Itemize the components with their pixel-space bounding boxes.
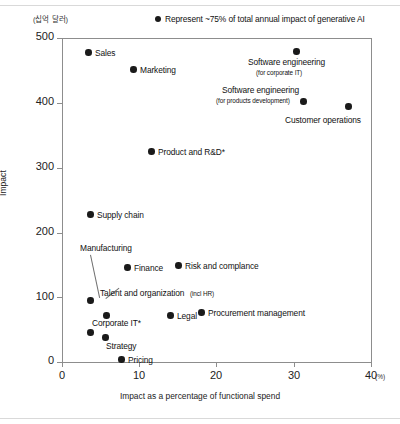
x-tick-label-30: 30 [274,369,314,381]
data-label-legal: Legal [177,311,197,321]
leader-line-manufacturing [90,255,100,298]
data-label-sales: Sales [95,48,115,58]
divider-bottom [0,418,400,419]
x-tick-label-20: 20 [196,369,236,381]
y-tick-label-400: 400 [36,95,54,107]
x-axis-title: Impact as a percentage of functional spe… [0,391,400,401]
data-label-procurement-management: Procurement management [208,308,305,318]
x-tick-label-10: 10 [119,369,159,381]
data-point-software-engineering-products-development[interactable] [300,98,307,105]
data-point-software-engineering-corporate-it[interactable] [293,48,300,55]
y-tick-label-0: 0 [48,354,54,366]
y-axis-line [62,38,63,363]
y-axis-unit-label: (십억 달러) [33,13,68,24]
y-tick-label-100: 100 [36,290,54,302]
data-label-supply-chain: Supply chain [97,210,144,220]
data-point-marketing[interactable] [130,66,137,73]
y-tick-400 [57,103,63,104]
data-label-product-and-rd: Product and R&D* [158,147,225,157]
x-tick-label-0: 0 [42,369,82,381]
data-point-sales[interactable] [85,49,92,56]
divider-top [0,5,400,6]
data-label-marketing: Marketing [140,65,176,75]
y-tick-label-500: 500 [36,30,54,42]
data-point-legal[interactable] [167,312,174,319]
y-tick-label-200: 200 [36,225,54,237]
data-point-finance[interactable] [124,264,131,271]
data-label-software-engineering-corporate-it: Software engineering [248,57,325,67]
data-sublabel-software-engineering-products-development: (for products development) [216,97,290,104]
x-tick-40 [371,362,372,367]
data-point-corporate-it[interactable] [87,329,94,336]
y-tick-100 [57,297,63,298]
data-label-finance: Finance [134,263,163,273]
data-sublabel-software-engineering-corporate-it: (for corporate IT) [256,69,302,76]
x-tick-30 [294,362,295,367]
y-axis-title: Impact [0,170,8,196]
data-point-pricing[interactable] [118,356,125,363]
y-tick-500 [57,38,63,39]
x-axis-unit-label: (%) [375,373,385,380]
data-point-manufacturing[interactable] [87,297,94,304]
legend: Represent ~75% of total annual impact of… [155,14,365,24]
legend-label: Represent ~75% of total annual impact of… [165,14,365,24]
x-axis-line [62,362,372,363]
data-point-customer-operations[interactable] [345,103,352,110]
legend-marker-icon [155,16,161,22]
data-point-procurement-management[interactable] [198,309,205,316]
data-label-customer-operations: Customer operations [285,115,361,125]
data-label-risk-and-compliance: Risk and complance [185,261,259,271]
y-tick-label-300: 300 [36,160,54,172]
data-point-supply-chain[interactable] [87,211,94,218]
y-tick-300 [57,168,63,169]
data-label-pricing: Pricing [128,355,153,365]
plot-top-border [62,38,372,39]
data-label-talent-and-organization: Talent and organization [100,288,184,298]
data-point-strategy[interactable] [102,334,109,341]
data-point-risk-and-compliance[interactable] [175,262,182,269]
x-tick-0 [62,362,63,367]
data-label-strategy: Strategy [106,341,136,351]
plot-right-border [371,38,372,363]
scatter-chart-figure: (십억 달러) Represent ~75% of total annual i… [0,0,400,424]
data-point-product-and-rd[interactable] [148,148,155,155]
data-label-software-engineering-products-development: Software engineering [222,85,299,95]
data-sublabel-talent-and-organization: (incl HR) [190,290,214,297]
x-tick-20 [216,362,217,367]
data-label-manufacturing: Manufacturing [80,243,132,253]
data-label-corporate-it: Corporate IT* [92,318,141,328]
y-tick-200 [57,233,63,234]
